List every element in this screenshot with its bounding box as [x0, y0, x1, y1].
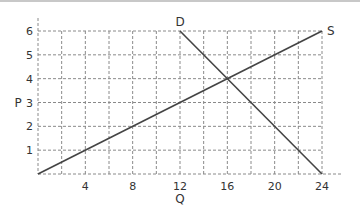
x-tick-label: 4 [82, 180, 89, 193]
y-tick-label: 6 [26, 25, 33, 38]
x-tick-label: 20 [268, 180, 282, 193]
x-tick-label: 16 [220, 180, 234, 193]
x-tick-label: 24 [315, 180, 329, 193]
y-axis-label: P [14, 96, 21, 110]
demand-label: D [175, 15, 184, 29]
supply-demand-chart: 1234564812162024PQSD [0, 0, 360, 218]
y-tick-label: 1 [26, 144, 33, 157]
x-tick-label: 8 [129, 180, 136, 193]
y-tick-label: 3 [26, 97, 33, 110]
supply-label: S [327, 24, 335, 38]
y-tick-label: 2 [26, 120, 33, 133]
y-tick-label: 4 [26, 73, 33, 86]
x-axis-label: Q [175, 192, 184, 206]
y-tick-label: 5 [26, 49, 33, 62]
